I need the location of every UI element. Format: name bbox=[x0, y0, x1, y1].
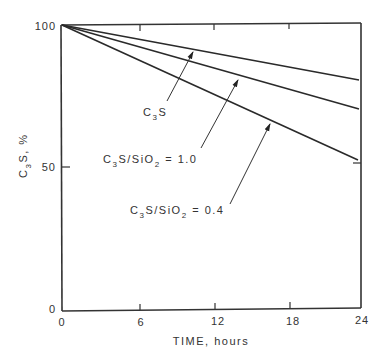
y-tick-100: 100 bbox=[35, 20, 56, 32]
x-tick-6: 6 bbox=[137, 316, 144, 328]
x-axis-ticks bbox=[140, 23, 290, 310]
x-tick-0: 0 bbox=[58, 316, 65, 328]
y-tick-50: 50 bbox=[42, 161, 56, 173]
chart: 0 6 12 18 24 0 50 100 TIME, hours C3S, %… bbox=[0, 0, 385, 363]
y-axis-title: C3S, % bbox=[17, 133, 33, 178]
plot-frame bbox=[61, 23, 361, 311]
series-lines bbox=[62, 25, 359, 160]
series-c3s bbox=[62, 25, 359, 80]
arrow-c3s bbox=[167, 52, 193, 101]
y-tick-labels: 0 50 100 bbox=[35, 20, 56, 315]
x-tick-12: 12 bbox=[211, 315, 225, 327]
series-ratio-0-4 bbox=[62, 25, 358, 160]
x-axis-title: TIME, hours bbox=[173, 335, 249, 347]
label-c3s: C3S bbox=[143, 106, 167, 122]
y-tick-0: 0 bbox=[49, 303, 56, 315]
arrow-ratio-0-4 bbox=[230, 124, 270, 204]
x-tick-24: 24 bbox=[355, 314, 369, 326]
x-tick-labels: 0 6 12 18 24 bbox=[58, 314, 369, 328]
label-ratio-0-4: C3S/SiO2 = 0.4 bbox=[130, 204, 224, 220]
annotation-arrows bbox=[167, 52, 270, 204]
x-tick-18: 18 bbox=[286, 315, 300, 327]
label-ratio-1-0: C3S/SiO2 = 1.0 bbox=[103, 153, 197, 169]
series-ratio-1-0 bbox=[62, 25, 359, 109]
